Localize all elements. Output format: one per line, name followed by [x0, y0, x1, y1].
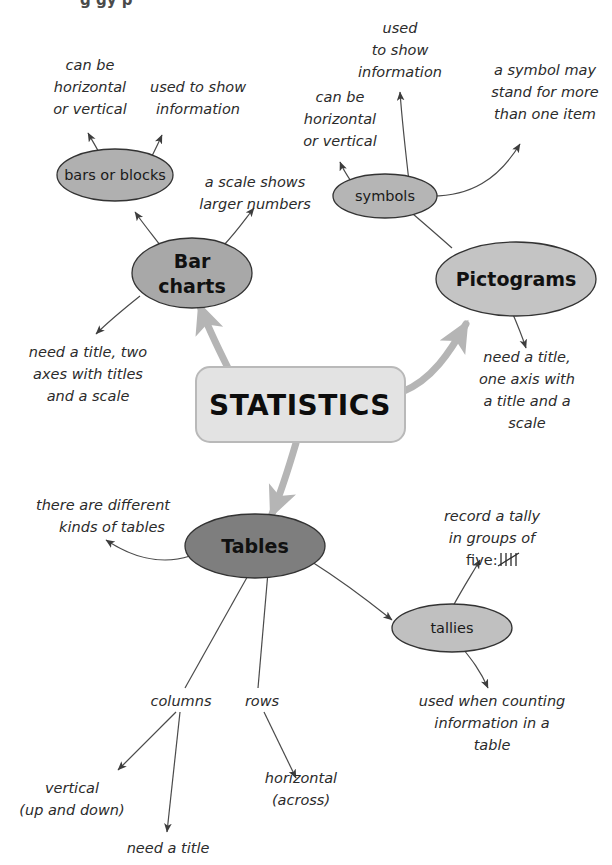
link-symbols-to-symbol-may-note — [432, 144, 520, 196]
link-pictograms-to-needs-note — [512, 312, 526, 348]
annot-bar-hv-line3: or vertical — [53, 101, 127, 117]
tables-label: Tables — [221, 535, 289, 557]
annotation-pictogram-requirements: need a title, one axis with a title and … — [479, 349, 575, 431]
link-statistics-to-tables — [272, 443, 296, 514]
annot-picto-used-line3: information — [358, 64, 442, 80]
bar-charts-label-line1: Bar — [174, 250, 211, 272]
statistics-mind-map: g gy p bars or bloc — [0, 0, 612, 865]
annot-counting-line1: used when counting — [419, 693, 566, 709]
annot-symbol-may-line1: a symbol may — [494, 62, 596, 78]
node-pictograms[interactable]: Pictograms — [436, 242, 596, 316]
annot-counting-line3: table — [474, 737, 511, 753]
link-bar-charts-to-bars-or-blocks — [135, 212, 160, 245]
bar-charts-label-line2: charts — [158, 275, 225, 297]
annot-rows-label: rows — [245, 693, 280, 709]
pictograms-label: Pictograms — [456, 268, 577, 290]
link-columns-to-vertical — [118, 712, 176, 770]
annot-picto-needs-line1: need a title, — [483, 349, 570, 365]
annotation-bar-can-be-horizontal-or-vertical: can be horizontal or vertical — [53, 57, 127, 117]
link-bar-charts-to-scale-note — [224, 208, 254, 245]
annotation-used-when-counting: used when counting information in a tabl… — [419, 693, 566, 753]
annot-columns-label: columns — [151, 693, 212, 709]
annot-bar-needs-line3: and a scale — [47, 388, 130, 404]
annot-picto-hv-line3: or vertical — [303, 133, 377, 149]
annotation-columns: columns — [151, 693, 212, 709]
annot-diff-kinds-line2: kinds of tables — [59, 519, 165, 535]
annotation-bar-used-to-show-information: used to show information — [150, 79, 246, 117]
cropped-header-remnant: g gy p — [80, 0, 133, 9]
link-rows-to-horizontal — [264, 712, 296, 778]
bar-charts-ellipse[interactable] — [132, 238, 252, 308]
link-tables-to-rows — [258, 572, 268, 688]
annot-picto-needs-line4: scale — [508, 415, 545, 431]
annot-vertical-line1: vertical — [45, 780, 99, 796]
annot-picto-hv-line2: horizontal — [304, 111, 376, 127]
annot-scale-line1: a scale shows — [205, 174, 306, 190]
annot-vertical-line2: (up and down) — [19, 802, 124, 818]
link-bar-charts-to-needs-note — [96, 296, 140, 334]
link-statistics-to-pictograms — [402, 324, 466, 392]
annot-bar-used-line2: information — [156, 101, 240, 117]
bars-or-blocks-label: bars or blocks — [64, 167, 166, 183]
link-tables-to-different-kinds-note — [106, 540, 190, 560]
link-columns-to-need-a-title — [167, 712, 180, 832]
annotation-horizontal-across: horizontal (across) — [265, 770, 337, 808]
annotation-need-a-title: need a title — [127, 840, 210, 856]
annotation-bar-charts-requirements: need a title, two axes with titles and a… — [29, 344, 147, 404]
tally-five-mark-icon — [498, 553, 519, 566]
annotation-symbol-may-stand-for-more: a symbol may stand for more than one ite… — [491, 62, 599, 122]
node-bars-or-blocks[interactable]: bars or blocks — [57, 149, 173, 201]
annot-bar-used-line1: used to show — [150, 79, 246, 95]
annot-counting-line2: information in a — [434, 715, 549, 731]
node-tallies[interactable]: tallies — [392, 604, 512, 652]
link-tables-to-columns — [185, 572, 250, 688]
annot-need-a-title-label: need a title — [127, 840, 210, 856]
link-tables-to-tallies — [312, 562, 392, 620]
node-bar-charts[interactable]: Bar charts — [132, 238, 252, 308]
node-statistics-center[interactable]: STATISTICS — [196, 367, 405, 442]
tables-links — [106, 540, 488, 832]
annot-picto-hv-line1: can be — [316, 89, 365, 105]
annotation-record-a-tally: record a tally in groups of five: — [444, 508, 541, 568]
annot-symbol-may-line2: stand for more — [491, 84, 599, 100]
annotation-scale-shows-larger-numbers: a scale shows larger numbers — [199, 174, 311, 212]
statistics-label: STATISTICS — [209, 389, 391, 422]
annot-horizontal-line2: (across) — [272, 792, 330, 808]
annot-picto-needs-line3: a title and a — [483, 393, 570, 409]
annot-bar-hv-line1: can be — [66, 57, 115, 73]
annot-scale-line2: larger numbers — [199, 196, 311, 212]
annotation-picto-can-be-horizontal-or-vertical: can be horizontal or vertical — [303, 89, 377, 149]
node-tables[interactable]: Tables — [185, 514, 325, 578]
annotation-picto-used-to-show-information: used to show information — [358, 20, 442, 80]
annot-bar-needs-line1: need a title, two — [29, 344, 147, 360]
symbols-label: symbols — [355, 188, 415, 204]
annot-symbol-may-line3: than one item — [494, 106, 596, 122]
annotation-vertical-up-and-down: vertical (up and down) — [19, 780, 124, 818]
annotation-rows: rows — [245, 693, 280, 709]
annot-bar-needs-line2: axes with titles — [33, 366, 143, 382]
annot-tally-line3: five: — [466, 552, 498, 568]
link-statistics-to-bar-charts — [200, 306, 228, 368]
node-symbols[interactable]: symbols — [333, 174, 437, 218]
annot-diff-kinds-line1: there are different — [36, 497, 171, 513]
annot-picto-used-line2: to show — [372, 42, 429, 58]
tallies-label: tallies — [430, 620, 473, 636]
cropped-header-text: g gy p — [80, 0, 133, 9]
annot-horizontal-line1: horizontal — [265, 770, 337, 786]
annot-bar-hv-line2: horizontal — [54, 79, 126, 95]
annotation-different-kinds-of-tables: there are different kinds of tables — [36, 497, 171, 535]
annot-tally-line2: in groups of — [449, 530, 537, 546]
annot-tally-line1: record a tally — [444, 508, 541, 524]
annot-picto-used-line1: used — [383, 20, 419, 36]
annot-picto-needs-line2: one axis with — [479, 371, 575, 387]
